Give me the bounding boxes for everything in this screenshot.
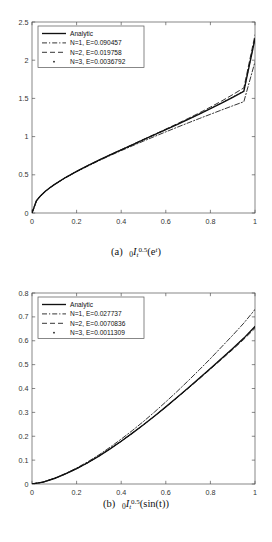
y-tick-label: 0.5: [19, 170, 29, 179]
caption-a-math: 0It0.5(et): [129, 246, 161, 257]
x-tick-label: 0.6: [161, 217, 171, 226]
x-tick-label: 1: [253, 488, 257, 497]
legend-item-label: N=2, E=0.0070836: [70, 320, 126, 327]
x-tick-label: 0.8: [205, 488, 215, 497]
y-tick-label: 0.2: [19, 432, 29, 441]
plot-a-container: 00.20.40.60.8100.511.522.5tAnalyticN=1, …: [0, 0, 272, 225]
y-tick-label: 0: [25, 480, 29, 489]
figure-page: 00.20.40.60.8100.511.522.5tAnalyticN=1, …: [0, 0, 272, 542]
legend-item-label: N=2, E=0.019758: [70, 49, 122, 56]
x-tick-label: 0.2: [72, 488, 82, 497]
plot-b-container: 00.20.40.60.8100.10.20.30.40.50.60.70.8t…: [0, 271, 272, 496]
legend-item-label: Analytic: [70, 301, 94, 309]
y-tick-label: 1.5: [19, 94, 29, 103]
y-tick-label: 0: [25, 209, 29, 218]
figure-a: 00.20.40.60.8100.511.522.5tAnalyticN=1, …: [0, 0, 272, 271]
y-tick-label: 1: [25, 132, 29, 141]
legend: AnalyticN=1, E=0.027737N=2, E=0.0070836N…: [38, 297, 144, 339]
y-tick-label: 0.5: [19, 360, 29, 369]
legend-item-label: Analytic: [70, 30, 94, 38]
x-tick-label: 0.8: [205, 217, 215, 226]
x-tick-label: 1: [253, 217, 257, 226]
legend-item-label: N=3, E=0.0036792: [70, 58, 126, 65]
x-tick-label: 0.6: [161, 488, 171, 497]
y-tick-label: 0.4: [19, 384, 29, 393]
x-tick-label: 0: [30, 217, 34, 226]
caption-b-sup: 0.5: [131, 498, 140, 506]
caption-a-prefix: (a): [111, 246, 123, 257]
legend-item-label: N=3, E=0.0011309: [70, 329, 125, 336]
caption-b-prefix: (b): [103, 498, 115, 509]
plot-b-svg: 00.20.40.60.8100.10.20.30.40.50.60.70.8t…: [0, 271, 272, 496]
y-tick-label: 2: [25, 56, 29, 65]
y-tick-label: 0.7: [19, 312, 29, 321]
x-tick-label: 0.4: [116, 217, 126, 226]
y-tick-label: 0.6: [19, 336, 29, 345]
caption-a-sup: 0.5: [139, 246, 148, 254]
legend: AnalyticN=1, E=0.090457N=2, E=0.019758N=…: [38, 26, 144, 68]
y-tick-label: 0.1: [19, 456, 29, 465]
legend-item-label: N=1, E=0.027737: [70, 310, 122, 317]
plot-a-svg: 00.20.40.60.8100.511.522.5tAnalyticN=1, …: [0, 0, 272, 225]
y-tick-label: 0.8: [19, 289, 29, 298]
caption-b-math: 0It0.5(sin(t)): [122, 498, 169, 509]
caption-a: (a) 0It0.5(et): [0, 246, 272, 259]
y-tick-label: 2.5: [19, 18, 29, 27]
y-tick-label: 0.3: [19, 408, 29, 417]
legend-item-label: N=1, E=0.090457: [70, 39, 122, 46]
x-tick-label: 0.2: [72, 217, 82, 226]
caption-b: (b) 0It0.5(sin(t)): [0, 498, 272, 511]
caption-a-arg-close: ): [157, 246, 161, 257]
caption-b-arg: (sin(t)): [140, 498, 169, 509]
x-tick-label: 0: [30, 488, 34, 497]
x-tick-label: 0.4: [116, 488, 126, 497]
